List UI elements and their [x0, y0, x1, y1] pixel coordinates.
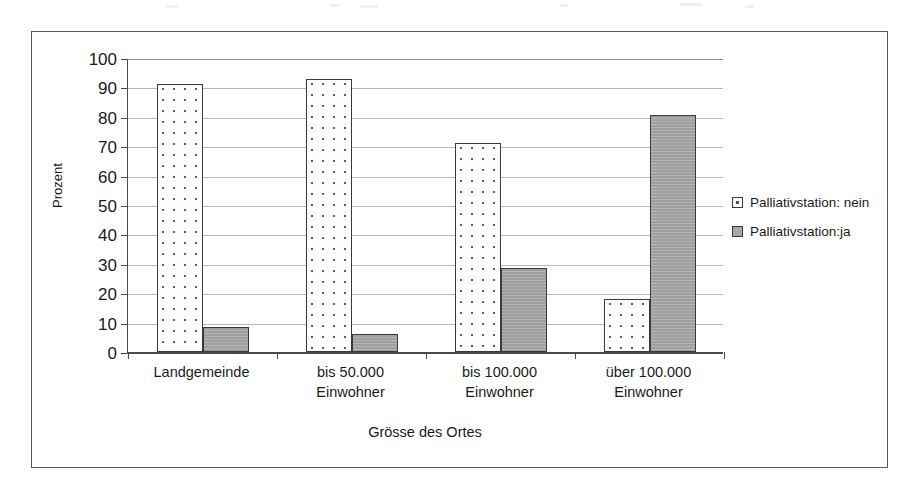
y-tick-label: 60: [98, 168, 117, 185]
y-tick-label: 50: [98, 198, 117, 215]
bar-nein-0: [157, 84, 203, 352]
x-tick-mark: [575, 352, 576, 359]
x-category-label-0: Landgemeinde: [127, 362, 276, 382]
x-axis-title: Grösse des Ortes: [127, 424, 723, 440]
chart-legend: Palliativstation: neinPalliativstation:j…: [732, 195, 882, 253]
legend-item-0[interactable]: Palliativstation: nein: [732, 195, 882, 210]
plot-area: 1009080706050403020100: [127, 59, 723, 353]
legend-item-label: Palliativstation: nein: [750, 195, 869, 210]
x-category-label-1: bis 50.000Einwohner: [276, 362, 425, 402]
bar-ja-3: [650, 115, 696, 352]
x-category-label-line: bis 50.000: [276, 362, 425, 382]
x-category-label-line: Einwohner: [574, 382, 723, 402]
legend-item-label: Palliativstation:ja: [750, 224, 851, 239]
y-tick-label: 20: [98, 286, 117, 303]
x-category-label-line: bis 100.000: [425, 362, 574, 382]
x-category-label-3: über 100.000Einwohner: [574, 362, 723, 402]
y-tick-mark: [121, 118, 128, 119]
x-tick-mark: [128, 352, 129, 359]
y-tick-label: 90: [98, 80, 117, 97]
y-tick-mark: [121, 324, 128, 325]
y-tick-mark: [121, 206, 128, 207]
bar-ja-1: [352, 334, 398, 352]
y-axis-title: Prozent: [50, 163, 65, 208]
y-tick-mark: [121, 147, 128, 148]
y-tick-mark: [121, 294, 128, 295]
scan-artifact-band: [0, 0, 910, 14]
y-tick-mark: [121, 177, 128, 178]
x-category-label-line: Landgemeinde: [127, 362, 276, 382]
bar-ja-0: [203, 327, 249, 352]
y-tick-mark: [121, 88, 128, 89]
x-category-label-2: bis 100.000Einwohner: [425, 362, 574, 402]
y-tick-label: 40: [98, 227, 117, 244]
x-category-label-line: Einwohner: [425, 382, 574, 402]
y-tick-label: 100: [89, 51, 117, 68]
x-category-label-line: über 100.000: [574, 362, 723, 382]
y-tick-label: 80: [98, 109, 117, 126]
y-tick-label: 70: [98, 139, 117, 156]
bar-ja-2: [501, 268, 547, 352]
bar-nein-1: [306, 79, 352, 352]
y-tick-mark: [121, 353, 128, 354]
bar-nein-2: [455, 143, 501, 352]
bar-nein-3: [604, 299, 650, 352]
x-tick-mark: [724, 352, 725, 359]
y-tick-label: 10: [98, 315, 117, 332]
x-tick-mark: [277, 352, 278, 359]
y-tick-label: 30: [98, 256, 117, 273]
dotted-swatch: [732, 197, 743, 208]
x-tick-mark: [426, 352, 427, 359]
x-category-label-line: Einwohner: [276, 382, 425, 402]
y-tick-mark: [121, 265, 128, 266]
chart-frame: Prozent 1009080706050403020100 Landgemei…: [31, 31, 888, 468]
y-tick-mark: [121, 235, 128, 236]
bars-layer: [128, 59, 723, 352]
y-tick-label: 0: [108, 345, 117, 362]
gray-swatch: [732, 226, 743, 237]
y-tick-mark: [121, 59, 128, 60]
x-axis-category-labels: Landgemeindebis 50.000Einwohnerbis 100.0…: [127, 362, 723, 418]
legend-item-1[interactable]: Palliativstation:ja: [732, 224, 882, 239]
